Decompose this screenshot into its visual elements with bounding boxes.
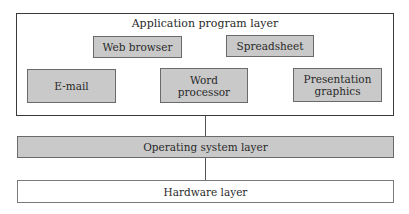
os-layer-box: Operating system layer xyxy=(17,136,394,158)
presentation-graphics-box: Presentation graphics xyxy=(293,68,382,102)
email-box: E-mail xyxy=(27,69,116,103)
word-processor-box: Word processor xyxy=(160,68,248,103)
connector-app-os xyxy=(205,116,206,137)
application-layer-title: Application program layer xyxy=(16,17,394,30)
hardware-layer-box: Hardware layer xyxy=(17,180,394,203)
web-browser-box: Web browser xyxy=(93,36,182,58)
connector-os-hardware xyxy=(205,158,206,180)
spreadsheet-box: Spreadsheet xyxy=(226,35,314,57)
